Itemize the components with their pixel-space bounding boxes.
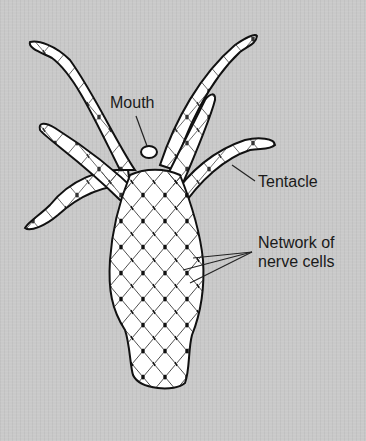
label-tentacle: Tentacle	[258, 172, 318, 191]
label-mouth: Mouth	[110, 93, 154, 112]
tentacle-leader	[232, 165, 255, 181]
label-network-line1: Network of	[258, 233, 334, 252]
hydra-illustration	[0, 0, 366, 441]
mouth-leader	[136, 116, 147, 146]
mouth-structure	[141, 146, 157, 158]
label-network-line2: nerve cells	[258, 252, 334, 271]
label-network-of-nerve-cells: Network of nerve cells	[258, 233, 334, 271]
